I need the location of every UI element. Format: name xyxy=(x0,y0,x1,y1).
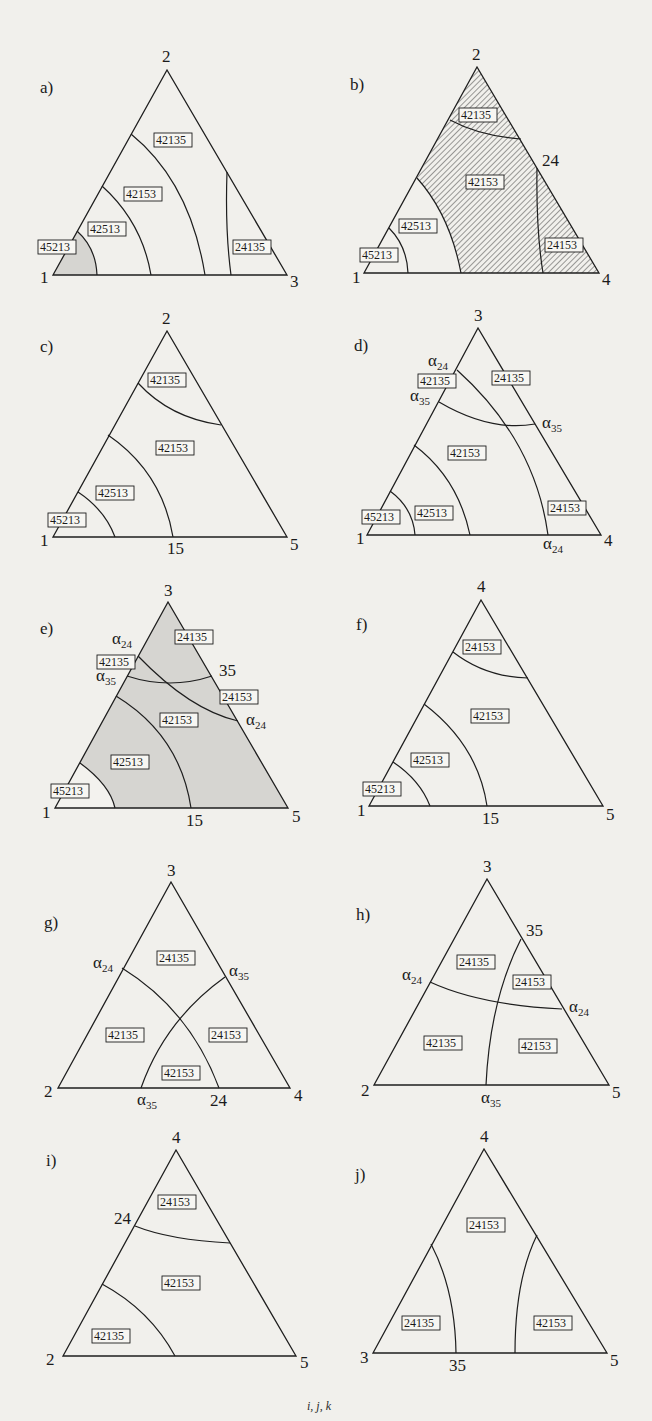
boundary-curve xyxy=(453,652,528,678)
boundary-curve xyxy=(515,1235,537,1353)
alpha-35-bottom-edge: α35 xyxy=(137,1090,157,1111)
svg-text:42513: 42513 xyxy=(413,753,443,767)
svg-text:24153: 24153 xyxy=(160,1195,190,1209)
vertex-label-left: 2 xyxy=(44,1082,53,1101)
vertex-label-top: 2 xyxy=(162,309,171,328)
svg-text:45213: 45213 xyxy=(50,513,80,527)
svg-text:24135: 24135 xyxy=(177,630,207,644)
vertex-label-left: 1 xyxy=(42,803,51,822)
vertex-label-left: 1 xyxy=(40,268,49,287)
edge-mark-24: 24 xyxy=(542,151,560,170)
svg-text:42153: 42153 xyxy=(521,1039,551,1053)
alpha-24-right-edge: α24 xyxy=(569,997,589,1018)
region-label-45213: 45213 xyxy=(362,510,400,524)
region-label-42135: 42135 xyxy=(97,655,135,669)
vertex-label-right: 5 xyxy=(300,1353,309,1372)
region-label-24135: 24135 xyxy=(157,951,195,965)
region-label-42513: 42513 xyxy=(399,219,437,233)
triangle-outline xyxy=(63,1150,296,1356)
panel-j: j) 4 3 5 35 24153 24135 42153 xyxy=(354,1127,619,1375)
svg-text:24135: 24135 xyxy=(459,955,489,969)
boundary-curve xyxy=(431,1244,456,1353)
svg-text:42513: 42513 xyxy=(90,222,120,236)
svg-text:24153: 24153 xyxy=(547,238,577,252)
region-label-42153: 42153 xyxy=(448,446,486,460)
region-label-42153: 42153 xyxy=(466,175,504,189)
alpha-35-left-edge: α35 xyxy=(410,386,430,407)
boundary-curve xyxy=(227,172,232,275)
triangle-outline xyxy=(53,331,287,537)
svg-text:42153: 42153 xyxy=(468,175,498,189)
svg-text:24153: 24153 xyxy=(515,975,545,989)
region-label-45213: 45213 xyxy=(38,240,76,254)
svg-text:42513: 42513 xyxy=(113,755,143,769)
svg-text:24153: 24153 xyxy=(550,501,580,515)
svg-text:42153: 42153 xyxy=(450,446,480,460)
panel-label: h) xyxy=(356,905,370,924)
vertex-label-right: 3 xyxy=(290,272,299,291)
svg-text:45213: 45213 xyxy=(40,240,70,254)
region-label-45213: 45213 xyxy=(360,248,398,262)
region-label-42513: 42513 xyxy=(415,506,453,520)
vertex-label-top: 3 xyxy=(167,861,176,880)
svg-text:42153: 42153 xyxy=(158,441,188,455)
svg-text:42135: 42135 xyxy=(426,1036,456,1050)
vertex-label-top: 2 xyxy=(162,47,171,66)
boundary-curve xyxy=(135,1226,230,1243)
svg-text:42153: 42153 xyxy=(164,1066,194,1080)
edge-mark-24: 24 xyxy=(114,1209,132,1228)
region-label-24135: 24135 xyxy=(402,1316,440,1330)
vertex-label-right: 4 xyxy=(602,270,611,289)
svg-text:42135: 42135 xyxy=(150,373,180,387)
svg-text:42153: 42153 xyxy=(126,187,156,201)
vertex-label-left: 3 xyxy=(360,1348,369,1367)
region-label-42153: 42153 xyxy=(534,1316,572,1330)
bottom-caption-fragment: i, j, k xyxy=(307,1399,332,1413)
svg-text:24135: 24135 xyxy=(494,371,524,385)
boundary-curve xyxy=(102,1284,175,1356)
svg-text:42153: 42153 xyxy=(162,713,192,727)
triangle-outline xyxy=(369,600,603,806)
region-label-42153: 42153 xyxy=(156,441,194,455)
svg-text:24135: 24135 xyxy=(159,951,189,965)
svg-text:42513: 42513 xyxy=(98,486,128,500)
region-label-42153: 42153 xyxy=(162,1276,200,1290)
alpha-24-left-edge: α24 xyxy=(93,953,113,974)
panel-label: c) xyxy=(40,337,53,356)
region-label-42153: 42153 xyxy=(471,709,509,723)
region-label-24153: 24153 xyxy=(209,1028,247,1042)
panel-e: e) 3 1 5 35 15 α24 α35 α24 24135 42135 2… xyxy=(40,581,301,830)
svg-text:42153: 42153 xyxy=(473,709,503,723)
boundary-curve xyxy=(131,134,205,275)
panel-label: i) xyxy=(46,1151,56,1170)
panel-c: c) 2 1 5 15 42135 42153 42513 45213 xyxy=(40,309,299,558)
region-label-42513: 42513 xyxy=(88,222,126,236)
panel-h: h) 3 2 5 35 α24 α24 α35 24135 24153 4213… xyxy=(356,857,621,1109)
vertex-label-right: 5 xyxy=(290,535,299,554)
svg-text:42513: 42513 xyxy=(401,219,431,233)
edge-mark-15: 15 xyxy=(167,539,184,558)
region-label-45213: 45213 xyxy=(51,784,89,798)
region-label-24135: 24135 xyxy=(233,240,271,254)
panel-label: e) xyxy=(40,619,53,638)
panel-i: i) 4 2 5 24 24153 42153 42135 xyxy=(46,1128,309,1372)
region-label-42135: 42135 xyxy=(154,133,192,147)
region-label-45213: 45213 xyxy=(363,782,401,796)
panel-g: g) 3 2 4 24 α24 α35 α35 24135 42135 2415… xyxy=(44,861,303,1111)
vertex-label-right: 5 xyxy=(292,807,301,826)
svg-text:42153: 42153 xyxy=(536,1316,566,1330)
svg-text:42135: 42135 xyxy=(461,108,491,122)
panel-d: d) 3 1 4 α24 α35 α35 α24 42135 24135 421… xyxy=(354,306,613,555)
edge-mark-35: 35 xyxy=(219,661,236,680)
panel-a: a) 2 1 3 42135 42153 42513 45213 24135 xyxy=(38,47,299,291)
svg-text:42513: 42513 xyxy=(417,506,447,520)
vertex-label-top: 2 xyxy=(472,45,481,64)
alpha-24-left-edge: α24 xyxy=(402,965,422,986)
svg-text:42135: 42135 xyxy=(156,133,186,147)
region-label-42513: 42513 xyxy=(96,486,134,500)
region-label-24153: 24153 xyxy=(158,1195,196,1209)
svg-text:42135: 42135 xyxy=(420,374,450,388)
vertex-label-left: 2 xyxy=(46,1350,55,1369)
vertex-label-top: 3 xyxy=(164,581,173,600)
panel-label: d) xyxy=(354,336,368,355)
